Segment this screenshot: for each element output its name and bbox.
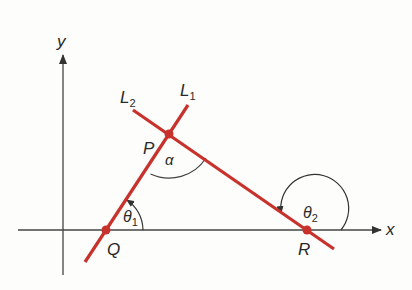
Q-label: Q <box>107 241 120 258</box>
L2-label-sub: 2 <box>129 97 135 109</box>
theta1-label: θ1 <box>123 209 138 228</box>
line-L1 <box>85 105 188 262</box>
theta1-label-main: θ <box>123 208 132 225</box>
L2-label: L2 <box>120 89 136 109</box>
P-label: P <box>143 140 154 157</box>
R-label: R <box>298 241 310 258</box>
alpha-label: α <box>165 152 174 167</box>
L1-label-sub: 1 <box>189 90 195 102</box>
theta2-label-sub: 2 <box>312 212 318 224</box>
x-axis-label: x <box>386 221 395 238</box>
diagram-canvas: y x L2 L1 P Q R α θ1 θ2 <box>0 0 412 290</box>
point-R <box>303 226 312 235</box>
theta2-label: θ2 <box>303 205 318 224</box>
L1-label: L1 <box>180 82 196 102</box>
y-axis-label: y <box>57 33 66 50</box>
theta2-label-main: θ <box>303 204 312 221</box>
alpha-arc <box>151 158 207 178</box>
theta1-label-sub: 1 <box>132 216 138 228</box>
point-P <box>165 130 174 139</box>
point-Q <box>102 226 111 235</box>
